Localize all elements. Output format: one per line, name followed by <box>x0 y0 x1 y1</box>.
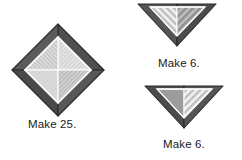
flying-geese-unit-a <box>136 0 218 50</box>
square-in-a-square-block <box>10 22 106 118</box>
caption-make-6-top: Make 6. <box>158 57 200 69</box>
caption-make-25: Make 25. <box>28 118 77 130</box>
flying-geese-unit-b <box>143 82 225 132</box>
caption-make-6-bottom: Make 6. <box>163 138 205 150</box>
figure-canvas: Make 25. Make 6. Make 6. <box>0 0 242 160</box>
